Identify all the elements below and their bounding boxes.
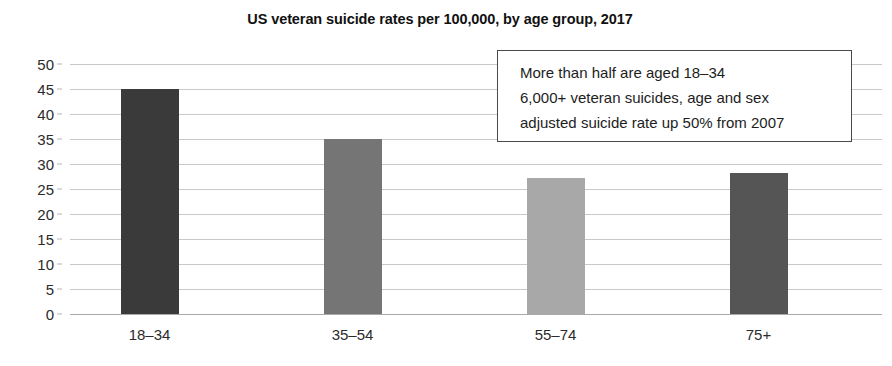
y-tick-mark-30	[57, 164, 62, 165]
annotation-line-1: More than half are aged 18–34	[520, 60, 851, 85]
y-tick-mark-20	[57, 214, 62, 215]
y-tick-label-50: 50	[37, 57, 54, 72]
y-tick-mark-10	[57, 264, 62, 265]
y-tick-label-15: 15	[37, 232, 54, 247]
x-axis: 18–3435–5455–7475+	[70, 316, 882, 356]
y-tick-label-25: 25	[37, 182, 54, 197]
y-tick-mark-25	[57, 189, 62, 190]
y-tick-label-20: 20	[37, 207, 54, 222]
x-tick-label-3: 75+	[746, 326, 771, 343]
bar-35-54	[324, 139, 382, 314]
bar-75-	[730, 173, 788, 315]
y-tick-mark-40	[57, 114, 62, 115]
y-tick-label-5: 5	[46, 282, 54, 297]
x-tick-label-1: 35–54	[332, 326, 374, 343]
bar-55-74	[527, 178, 585, 315]
gridline-30	[70, 164, 882, 165]
y-tick-mark-0	[57, 314, 62, 315]
x-tick-label-2: 55–74	[535, 326, 577, 343]
bar-chart: US veteran suicide rates per 100,000, by…	[0, 0, 892, 366]
chart-title: US veteran suicide rates per 100,000, by…	[0, 11, 880, 27]
annotation-callout-box: More than half are aged 18–34 6,000+ vet…	[497, 50, 852, 142]
y-tick-mark-50	[57, 64, 62, 65]
y-tick-label-35: 35	[37, 132, 54, 147]
annotation-line-2: 6,000+ veteran suicides, age and sex	[520, 85, 851, 110]
y-tick-label-40: 40	[37, 107, 54, 122]
y-tick-label-30: 30	[37, 157, 54, 172]
y-tick-mark-35	[57, 139, 62, 140]
y-tick-mark-15	[57, 239, 62, 240]
bar-18-34	[121, 89, 179, 314]
y-tick-label-45: 45	[37, 82, 54, 97]
x-tick-label-0: 18–34	[129, 326, 171, 343]
y-tick-mark-5	[57, 289, 62, 290]
y-tick-mark-45	[57, 89, 62, 90]
y-axis: 50454035302520151050	[0, 64, 62, 314]
y-tick-label-10: 10	[37, 257, 54, 272]
gridline-0	[70, 314, 882, 315]
y-tick-label-0: 0	[46, 307, 54, 322]
annotation-line-3: adjusted suicide rate up 50% from 2007	[520, 110, 851, 135]
